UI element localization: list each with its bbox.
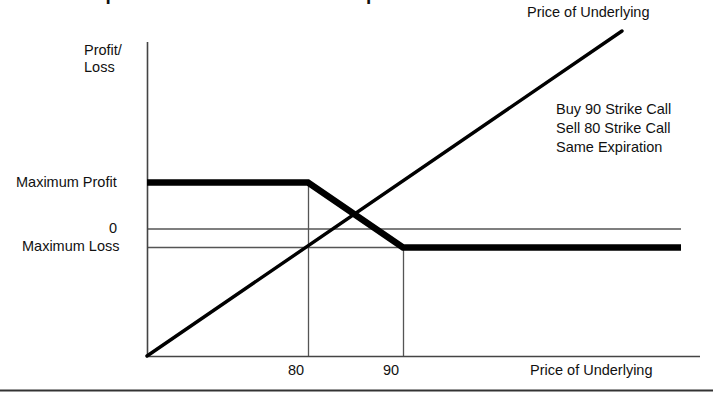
annotation-line-3: Same Expiration [556, 138, 671, 157]
x-axis-label-top: Price of Underlying [527, 4, 650, 21]
payoff-diagram-page: Bear Call Spread - Profit and Loss at Ex… [0, 0, 713, 402]
y-axis-label: Profit/ Loss [84, 42, 122, 76]
strategy-annotation: Buy 90 Strike Call Sell 80 Strike Call S… [556, 100, 671, 157]
x-axis-label-bottom: Price of Underlying [530, 362, 653, 379]
payoff-curve [147, 183, 681, 248]
annotation-line-1: Buy 90 Strike Call [556, 100, 671, 119]
y-axis-label-line2: Loss [84, 59, 122, 76]
annotation-line-2: Sell 80 Strike Call [556, 119, 671, 138]
x-tick-label-90: 90 [383, 362, 399, 379]
x-tick-label-80: 80 [288, 362, 304, 379]
underlying-price-diagonal [147, 31, 622, 356]
y-axis-label-line1: Profit/ [84, 42, 122, 59]
max-loss-label: Maximum Loss [22, 238, 120, 255]
zero-level-label: 0 [109, 220, 117, 237]
max-profit-label: Maximum Profit [16, 174, 117, 191]
